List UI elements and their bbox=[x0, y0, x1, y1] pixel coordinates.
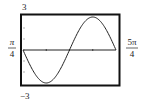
y-tick bbox=[24, 61, 25, 62]
x-max-label-denominator: 4 bbox=[130, 49, 135, 59]
y-tick bbox=[24, 72, 25, 73]
y-tick bbox=[24, 39, 25, 40]
graph: 3 −3 π 4 5π 4 bbox=[0, 0, 141, 102]
x-min-label-numerator: π bbox=[10, 37, 15, 47]
y-tick bbox=[24, 28, 25, 29]
x-min-label-denominator: 4 bbox=[10, 49, 15, 59]
y-max-label: 3 bbox=[22, 2, 27, 12]
x-max-label-numerator: 5π bbox=[127, 37, 137, 47]
y-min-label: −3 bbox=[20, 91, 30, 101]
